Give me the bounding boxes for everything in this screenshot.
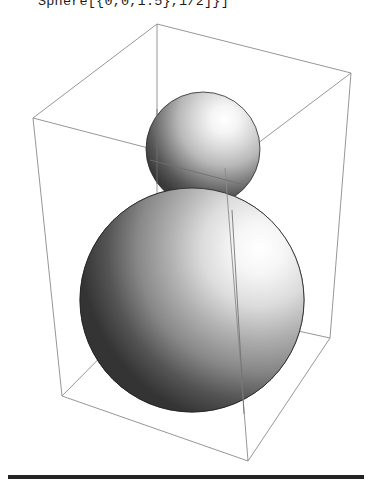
graphics3d-svg — [0, 14, 372, 469]
code-expression: Sphere[{0,0,1.5},1/2]}] — [38, 0, 358, 11]
graphics3d-canvas[interactable] — [0, 14, 372, 469]
output-page: Sphere[{0,0,1.5},1/2]}] — [0, 0, 372, 492]
sphere-group — [80, 92, 304, 412]
large-sphere-front — [80, 188, 304, 412]
horizontal-rule — [8, 475, 364, 479]
